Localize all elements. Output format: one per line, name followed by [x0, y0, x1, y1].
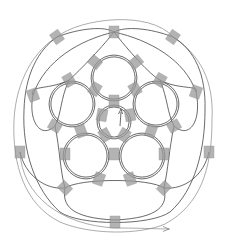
direction-arrow-icon	[119, 109, 123, 126]
crossing-tile	[96, 108, 108, 122]
crossing-tile	[189, 85, 203, 100]
diagram-canvas	[0, 0, 227, 241]
crossing-tile	[109, 148, 119, 160]
crossing-tile	[110, 216, 120, 228]
crossing-tile	[123, 172, 137, 187]
crossing-tile	[156, 180, 172, 196]
crossing-tiles	[15, 26, 214, 228]
crossing-tile	[47, 119, 62, 134]
crossing-tile	[109, 95, 119, 107]
ring-lower-right	[121, 135, 163, 177]
crossing-tile	[92, 172, 106, 187]
crossing-tile	[159, 148, 169, 160]
knot-diagram	[0, 0, 227, 241]
crossing-tile	[128, 54, 144, 69]
crossing-tile	[60, 148, 70, 160]
crossing-tile	[87, 54, 103, 69]
crossing-tile	[74, 124, 88, 139]
crossing-tile	[204, 146, 214, 158]
crossing-tile	[49, 29, 64, 45]
crossing-tile	[109, 26, 119, 38]
crossing-tile	[62, 72, 77, 87]
ring-lower-left	[65, 135, 107, 177]
ring-upper-left	[51, 83, 93, 125]
ring-upper-left	[49, 81, 95, 127]
ring-upper-right	[135, 83, 177, 125]
crossing-tile	[144, 124, 158, 139]
crossing-tile	[57, 180, 73, 196]
crossing-tile	[15, 146, 25, 158]
crossing-tile	[124, 108, 136, 122]
crossing-tile	[26, 88, 40, 103]
outer-strands	[14, 20, 212, 232]
